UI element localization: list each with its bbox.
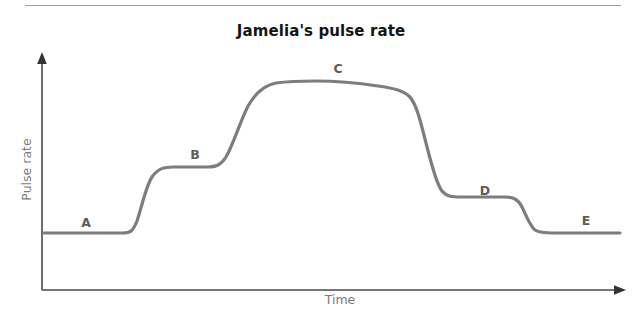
chart-plot-area xyxy=(0,0,642,331)
curve-point-label-a: A xyxy=(81,215,91,230)
curve-point-label-e: E xyxy=(582,213,591,228)
curve-point-label-c: C xyxy=(333,61,342,76)
x-axis-arrow-icon xyxy=(614,285,626,295)
y-axis-arrow-icon xyxy=(37,52,47,64)
pulse-rate-chart: Jamelia's pulse rate Pulse rate Time A B… xyxy=(0,0,642,331)
curve-point-label-b: B xyxy=(190,147,200,162)
curve-point-label-d: D xyxy=(480,183,490,198)
pulse-rate-curve xyxy=(44,81,620,233)
